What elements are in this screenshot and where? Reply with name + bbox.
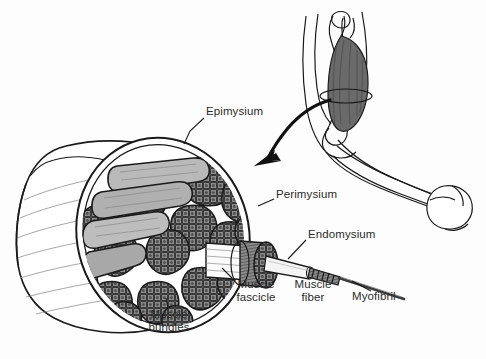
muscle-structure-figure: Epimysium Perimysium Endomysium Muscle f… bbox=[0, 0, 486, 359]
label-muscle-bundles: Muscle bundles bbox=[141, 308, 197, 334]
leader-epimysium bbox=[184, 118, 204, 144]
leader-endomysium bbox=[288, 240, 306, 259]
label-muscle-fiber: Muscle fiber bbox=[288, 278, 338, 304]
label-epimysium: Epimysium bbox=[206, 105, 263, 118]
diagram-artwork bbox=[0, 0, 486, 359]
label-muscle-fascicle-line1: Muscle bbox=[228, 278, 284, 291]
label-muscle-fascicle-line2: fascicle bbox=[228, 291, 284, 304]
label-muscle-fiber-line2: fiber bbox=[288, 291, 338, 304]
label-perimysium: Perimysium bbox=[276, 188, 337, 201]
label-muscle-bundles-line1: Muscle bbox=[141, 308, 197, 321]
leader-perimysium bbox=[258, 199, 274, 206]
label-muscle-fiber-line1: Muscle bbox=[288, 278, 338, 291]
label-muscle-bundles-line2: bundles bbox=[141, 321, 197, 334]
label-myofibril: Myofibril bbox=[352, 290, 396, 303]
label-endomysium: Endomysium bbox=[308, 228, 375, 241]
magnification-arrow bbox=[254, 100, 330, 166]
label-muscle-fascicle: Muscle fascicle bbox=[228, 278, 284, 304]
